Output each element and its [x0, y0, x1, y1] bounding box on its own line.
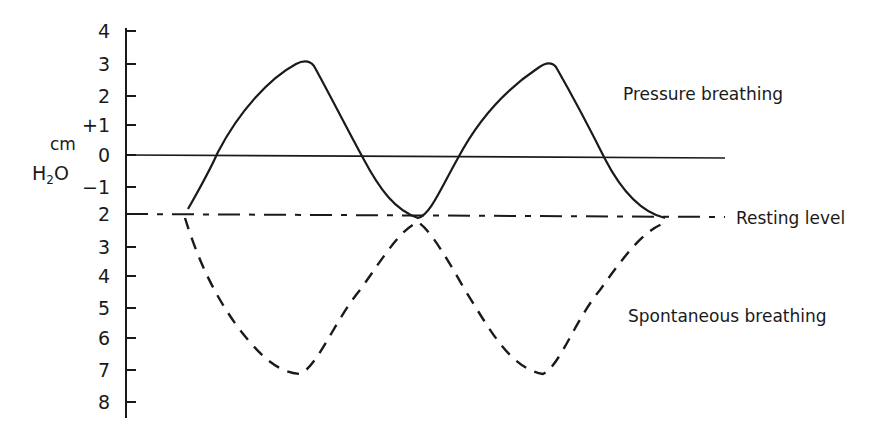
y-tick-label: 8 [98, 391, 110, 413]
y-tick-label: 7 [98, 359, 110, 381]
spontaneous-breathing-label: Spontaneous breathing [628, 306, 827, 326]
y-tick-label: 4 [98, 265, 110, 287]
y-tick-label: 3 [98, 53, 110, 75]
y-tick-labels: 432+10−12345678 [82, 20, 110, 413]
resting-level-label: Resting level [736, 208, 845, 228]
y-tick-label: 4 [98, 20, 110, 42]
y-tick-label: 0 [98, 144, 110, 166]
pressure-breathing-curve [188, 62, 665, 218]
y-tick-label: −1 [82, 176, 110, 198]
y-tick-label: 2 [98, 85, 110, 107]
spontaneous-breathing-curve [185, 218, 668, 374]
y-tick-label: 3 [98, 236, 110, 258]
y-ticks [126, 31, 136, 402]
y-tick-label: +1 [82, 114, 110, 136]
y-tick-label: 2 [98, 203, 110, 225]
breathing-pressure-diagram: 432+10−12345678 cm H2O Pressure breathin… [0, 0, 878, 439]
y-unit-cm: cm [50, 134, 76, 154]
y-unit-h2o: H2O [32, 162, 69, 187]
y-tick-label: 6 [98, 327, 110, 349]
pressure-breathing-label: Pressure breathing [623, 84, 783, 104]
y-tick-label: 5 [98, 297, 110, 319]
